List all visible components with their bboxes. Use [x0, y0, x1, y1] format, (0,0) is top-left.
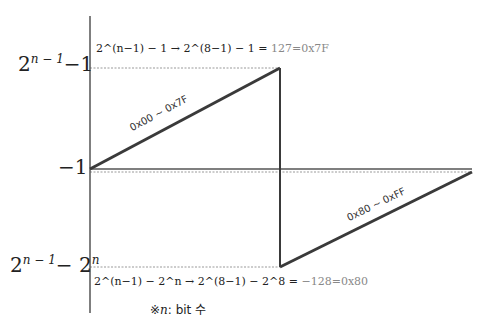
- max-formula: 2^(n−1) − 1 → 2^(8−1) − 1 = 127=0x7F: [96, 42, 329, 55]
- y-label-min: 2n − 1− 2n: [10, 253, 99, 277]
- min-result: −128=0x80: [301, 275, 368, 288]
- min-formula: 2^(n−1) − 2^n → 2^(8−1) − 2^8 = −128=0x8…: [94, 275, 368, 288]
- footnote: ※n: bit 수: [150, 300, 206, 317]
- y-label-minus-one: −1: [58, 155, 87, 179]
- negative-ramp: [280, 172, 472, 267]
- y-label-max: 2n − 1−1: [18, 52, 93, 76]
- positive-ramp: [90, 68, 280, 169]
- max-result: 127=0x7F: [271, 42, 329, 55]
